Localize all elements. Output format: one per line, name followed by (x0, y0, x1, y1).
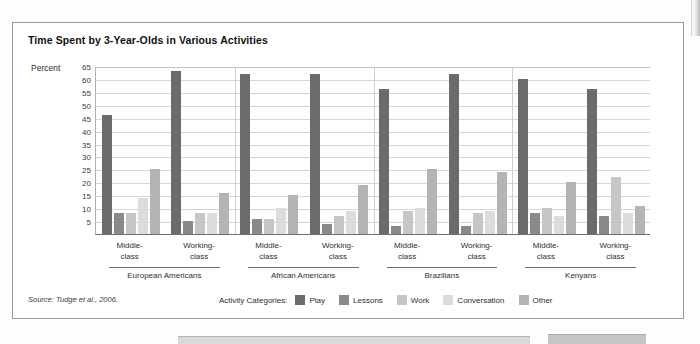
culture-rule (387, 267, 498, 268)
legend-swatch-play (295, 295, 305, 305)
class-label-line1: Middle- (377, 241, 437, 252)
class-label-line2: class (308, 252, 368, 263)
bar-other (219, 193, 229, 234)
legend-swatch-work (397, 295, 407, 305)
bar-play (102, 115, 112, 234)
y-axis-tick-30: 30 (71, 153, 91, 162)
legend-label-lessons: Lessons (353, 296, 383, 305)
bar-lessons (322, 224, 332, 234)
y-axis-tick-10: 10 (71, 205, 91, 214)
class-label-line1: Middle- (100, 241, 160, 252)
class-label: Middle-class (377, 241, 437, 262)
legend-swatch-conversation (443, 295, 453, 305)
class-label-line2: class (169, 252, 229, 263)
legend-label-work: Work (411, 296, 430, 305)
class-label: Working-class (585, 241, 645, 262)
bar-lessons (252, 219, 262, 235)
bar-play (171, 71, 181, 234)
class-label-line2: class (238, 252, 298, 263)
bar-work (126, 213, 136, 234)
bar-lessons (461, 226, 471, 234)
class-label-line1: Middle- (516, 241, 576, 252)
y-axis-tick-60: 60 (71, 75, 91, 84)
y-axis-tick-65: 65 (71, 63, 91, 72)
bar-work (195, 213, 205, 234)
bar-other (150, 169, 160, 234)
class-label-line2: class (100, 252, 160, 263)
y-axis-tick-40: 40 (71, 127, 91, 136)
class-label-line1: Working- (308, 241, 368, 252)
class-label: Working-class (169, 241, 229, 262)
culture-label: Kenyans (511, 271, 650, 280)
y-axis-tick-25: 25 (71, 166, 91, 175)
y-axis-tick-15: 15 (71, 192, 91, 201)
group-separator-1 (235, 67, 236, 234)
class-label: Middle-class (100, 241, 160, 262)
culture-rule (248, 267, 359, 268)
y-axis-tick-45: 45 (71, 114, 91, 123)
figure-container: Time Spent by 3-Year-Olds in Various Act… (12, 22, 684, 319)
legend-item-lessons: Lessons (339, 295, 383, 305)
class-label: Working-class (308, 241, 368, 262)
bar-play (449, 74, 459, 234)
class-label: Middle-class (516, 241, 576, 262)
bar-conversation (415, 208, 425, 234)
bar-play (379, 89, 389, 234)
class-label-line2: class (585, 252, 645, 263)
plot-area (95, 67, 650, 235)
bar-conversation (276, 208, 286, 234)
legend-item-work: Work (397, 295, 430, 305)
bar-work (334, 216, 344, 234)
legend-item-conversation: Conversation (443, 295, 504, 305)
culture-rule (525, 267, 636, 268)
class-label-line2: class (516, 252, 576, 263)
y-axis-tick-35: 35 (71, 140, 91, 149)
y-axis-tick-50: 50 (71, 101, 91, 110)
y-axis-tick-20: 20 (71, 179, 91, 188)
bar-conversation (623, 213, 633, 234)
class-label-line2: class (377, 252, 437, 263)
bar-other (288, 195, 298, 234)
bar-conversation (207, 213, 217, 234)
bar-conversation (346, 211, 356, 234)
culture-label: European Americans (95, 271, 234, 280)
source-note: Source: Tudge et al., 2006. (28, 295, 118, 304)
bar-play (240, 74, 250, 234)
class-label-line2: class (447, 252, 507, 263)
class-label: Working-class (447, 241, 507, 262)
bar-other (566, 182, 576, 234)
bar-work (473, 213, 483, 234)
class-label: Middle-class (238, 241, 298, 262)
legend-label-conversation: Conversation (457, 296, 504, 305)
page-scan-strip-bottom-right (548, 334, 646, 344)
bar-other (427, 169, 437, 234)
class-label-line1: Middle- (238, 241, 298, 252)
y-axis-tick-labels: 6560555045403530252015105 (69, 67, 91, 235)
bar-conversation (554, 216, 564, 234)
page-scan-edge-right (691, 0, 700, 36)
legend-label-play: Play (309, 296, 325, 305)
culture-label: African Americans (234, 271, 373, 280)
bar-conversation (138, 198, 148, 234)
chart-legend: Activity Categories: PlayLessonsWorkConv… (219, 295, 561, 305)
group-separator-3 (512, 67, 513, 234)
bar-play (310, 74, 320, 234)
legend-item-play: Play (295, 295, 325, 305)
legend-swatch-lessons (339, 295, 349, 305)
y-axis-tick-55: 55 (71, 88, 91, 97)
class-label-line1: Working- (169, 241, 229, 252)
legend-item-other: Other (519, 295, 553, 305)
plot-inner (95, 67, 650, 235)
y-axis-title: Percent (31, 63, 60, 73)
legend-label-other: Other (533, 296, 553, 305)
class-label-line1: Working- (447, 241, 507, 252)
y-axis-tick-5: 5 (71, 218, 91, 227)
bar-work (264, 219, 274, 235)
legend-swatch-other (519, 295, 529, 305)
bar-other (635, 206, 645, 234)
bar-work (403, 211, 413, 234)
chart-title: Time Spent by 3-Year-Olds in Various Act… (28, 34, 268, 46)
legend-title: Activity Categories: (219, 296, 287, 305)
bar-play (587, 89, 597, 234)
group-separator-2 (374, 67, 375, 234)
